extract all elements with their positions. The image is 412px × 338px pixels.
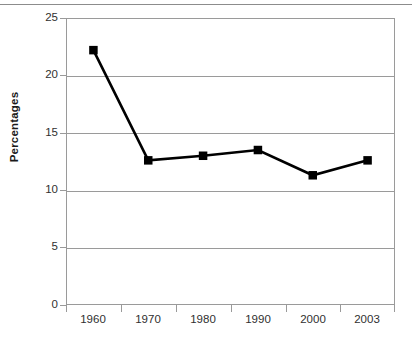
x-tick-label-2000: 2000: [285, 313, 341, 325]
x-tick-mark-4: [286, 305, 287, 312]
x-tick-label-1960: 1960: [65, 313, 121, 325]
y-tick-mark-15: [60, 133, 66, 134]
y-tick-label-5: 5: [12, 240, 58, 252]
x-tick-mark-6: [394, 305, 395, 312]
y-tick-label-20: 20: [12, 68, 58, 80]
y-tick-label-0: 0: [12, 298, 58, 310]
x-tick-mark-5: [340, 305, 341, 312]
y-tick-label-25: 25: [12, 11, 58, 23]
y-tick-mark-20: [60, 75, 66, 76]
gridline-5: [67, 248, 394, 249]
plot-area: [66, 18, 395, 305]
chart-figure: Percentages 25 20 15 10 5 0 1960 1970 19…: [0, 0, 412, 338]
x-tick-mark-1: [121, 305, 122, 312]
y-tick-mark-10: [60, 190, 66, 191]
gridline-20: [67, 76, 394, 77]
x-tick-mark-2: [176, 305, 177, 312]
x-tick-label-1970: 1970: [120, 313, 176, 325]
x-tick-label-1980: 1980: [175, 313, 231, 325]
x-tick-label-2003: 2003: [339, 313, 395, 325]
x-tick-mark-3: [231, 305, 232, 312]
y-tick-label-10: 10: [12, 183, 58, 195]
x-tick-label-1990: 1990: [230, 313, 286, 325]
top-divider-rule: [0, 4, 412, 5]
y-tick-mark-5: [60, 247, 66, 248]
y-tick-mark-25: [60, 18, 66, 19]
y-tick-label-15: 15: [12, 126, 58, 138]
gridline-10: [67, 191, 394, 192]
x-tick-mark-0: [66, 305, 67, 312]
gridline-15: [67, 133, 394, 134]
